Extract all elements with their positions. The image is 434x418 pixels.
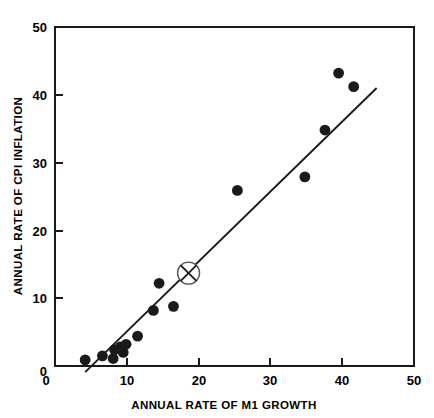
axes-frame [55, 27, 414, 366]
data-point [97, 350, 108, 361]
regression-line-segment [85, 88, 377, 372]
x-axis-title: ANNUAL RATE OF M1 GROWTH [131, 399, 317, 411]
x-tick-label-20: 20 [192, 373, 206, 388]
data-point [148, 305, 159, 316]
y-tick-label-50: 50 [33, 20, 47, 35]
regression-line [85, 88, 377, 372]
x-tick-label-50: 50 [407, 373, 421, 388]
data-point [168, 301, 179, 312]
x-tick-label-40: 40 [335, 373, 349, 388]
data-point [299, 171, 310, 182]
data-point [333, 68, 344, 79]
y-tick-label-20: 20 [33, 224, 47, 239]
plot-frame [55, 27, 414, 366]
y-axis-tick-labels: 50 40 30 20 10 0 [33, 20, 47, 379]
x-tick-label-0: 0 [42, 373, 49, 388]
scatter-points [80, 68, 359, 366]
highlighted-point-marker [178, 262, 200, 284]
data-point [348, 81, 359, 92]
x-axis-tick-labels: 0 10 20 30 40 50 [42, 373, 421, 388]
data-point [232, 185, 243, 196]
y-axis-ticks [55, 27, 63, 366]
plot-canvas: 50 40 30 20 10 0 0 10 20 30 40 50 ANNUAL… [0, 0, 434, 418]
y-tick-label-30: 30 [33, 156, 47, 171]
y-axis-title: ANNUAL RATE OF CPI INFLATION [12, 97, 24, 295]
scatter-plot-figure: 50 40 30 20 10 0 0 10 20 30 40 50 ANNUAL… [0, 0, 434, 418]
data-point [154, 278, 165, 289]
y-tick-label-40: 40 [33, 88, 47, 103]
data-point [80, 354, 91, 365]
data-point [132, 331, 143, 342]
x-tick-label-30: 30 [263, 373, 277, 388]
y-tick-label-10: 10 [33, 291, 47, 306]
data-point [320, 125, 331, 136]
data-point [121, 339, 132, 350]
x-tick-label-10: 10 [120, 373, 134, 388]
